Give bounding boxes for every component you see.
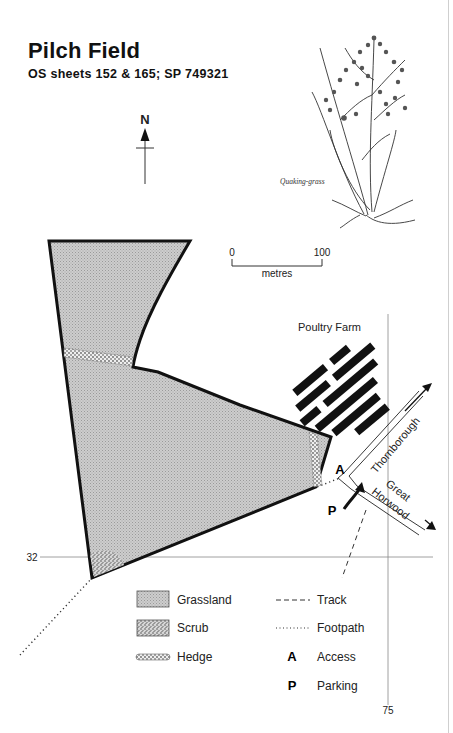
legend-label-grassland: Grassland (177, 593, 232, 607)
easting-label: 75 (382, 705, 394, 716)
illustration-caption: Quaking-grass (280, 177, 325, 186)
legend-label-parking: Parking (317, 679, 358, 693)
site-map: N Quaking-grass 0 1 (0, 0, 453, 733)
northing-label: 32 (26, 552, 38, 563)
legend-label-footpath: Footpath (317, 621, 364, 635)
svg-text:100: 100 (314, 247, 331, 258)
track (342, 510, 366, 578)
scrub-swatch (137, 620, 169, 636)
legend-label-access: Access (317, 650, 356, 664)
access-symbol: A (287, 649, 297, 664)
scale-bar: 0 100 metres (229, 247, 331, 279)
north-arrow-head-icon (141, 128, 150, 141)
hedge-swatch (136, 654, 170, 660)
parking-arrow (344, 488, 360, 509)
road-arrow-great-horwood (425, 520, 436, 530)
svg-text:metres: metres (262, 268, 293, 279)
legend-label-scrub: Scrub (177, 621, 208, 635)
svg-text:0: 0 (229, 247, 235, 258)
quaking-grass-illustration (312, 36, 415, 228)
access-marker: A (335, 462, 345, 477)
legend-label-track: Track (317, 593, 347, 607)
grassland-field (49, 241, 331, 578)
road-label-thornborough: Thornborough (368, 415, 422, 476)
legend-label-hedge: Hedge (177, 650, 212, 664)
grassland-swatch (137, 591, 169, 607)
poultry-farm-label: Poultry Farm (298, 321, 361, 333)
road-arrow-thornborough (405, 383, 432, 411)
north-arrow: N (136, 112, 154, 184)
parking-marker: P (328, 503, 337, 518)
parking-symbol: P (288, 678, 297, 693)
north-label: N (140, 112, 149, 127)
